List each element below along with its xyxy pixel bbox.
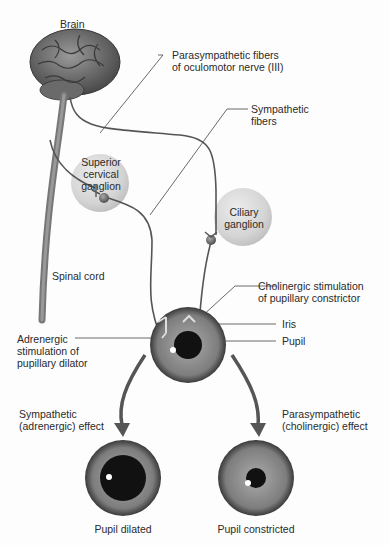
sympathetic-effect-line2: (adrenergic) effect [19, 420, 104, 432]
sympathetic-effect-label: Sympathetic (adrenergic) effect [19, 408, 104, 432]
dilated-eye [85, 440, 161, 516]
sympathetic-fibers-label: Sympathetic fibers [251, 103, 309, 127]
cholinergic-line2: of pupillary constrictor [258, 292, 364, 304]
parasympathetic-fibers-line2: of oculomotor nerve (III) [172, 61, 283, 73]
superior-cervical-line3: ganglion [75, 180, 127, 192]
brain-label: Brain [60, 18, 85, 30]
cholinergic-line1: Cholinergic stimulation [258, 280, 364, 292]
adrenergic-line2: stimulation of [17, 345, 88, 357]
autonomic-pupil-diagram: Brain Parasympathetic fibers of oculomot… [0, 0, 389, 545]
pupil-label: Pupil [282, 335, 305, 347]
cholinergic-stimulation-label: Cholinergic stimulation of pupillary con… [258, 280, 364, 304]
adrenergic-line1: Adrenergic [17, 333, 88, 345]
parasympathetic-effect-label: Parasympathetic (cholinergic) effect [282, 408, 368, 432]
sympathetic-effect-line1: Sympathetic [19, 408, 104, 420]
constricted-eye [218, 440, 294, 516]
pupil-constricted-label: Pupil constricted [206, 523, 306, 535]
iris-label: Iris [282, 318, 296, 330]
ciliary-ganglion-label: Ciliary ganglion [218, 206, 270, 230]
ciliary-line1: Ciliary [218, 206, 270, 218]
adrenergic-line3: pupillary dilator [17, 357, 88, 369]
parasympathetic-effect-line2: (cholinergic) effect [282, 420, 368, 432]
ciliary-line2: ganglion [218, 218, 270, 230]
adrenergic-stimulation-label: Adrenergic stimulation of pupillary dila… [17, 333, 88, 369]
superior-cervical-line1: Superior [75, 156, 127, 168]
sympathetic-fibers-line2: fibers [251, 115, 309, 127]
superior-cervical-line2: cervical [75, 168, 127, 180]
parasympathetic-fibers-line1: Parasympathetic fibers [172, 49, 283, 61]
spinal-cord-label: Spinal cord [52, 270, 105, 282]
pupil-dilated-label: Pupil dilated [73, 523, 173, 535]
parasympathetic-effect-line1: Parasympathetic [282, 408, 368, 420]
parasympathetic-fibers-label: Parasympathetic fibers of oculomotor ner… [172, 49, 283, 73]
superior-cervical-ganglion-label: Superior cervical ganglion [75, 156, 127, 192]
sympathetic-fibers-line1: Sympathetic [251, 103, 309, 115]
